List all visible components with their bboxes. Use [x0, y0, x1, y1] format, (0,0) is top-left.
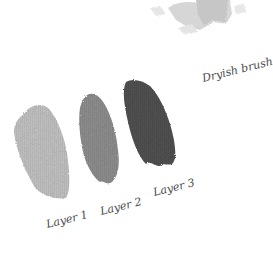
dry-brush-texture [150, 0, 246, 34]
layer-2-stroke [79, 94, 119, 184]
illustration-canvas: Dryish brush Layer 1 Layer 2 Layer 3 [0, 0, 273, 253]
layer-3-stroke [124, 80, 175, 166]
brush-strokes-art [0, 0, 273, 253]
layer-1-stroke [14, 105, 69, 198]
